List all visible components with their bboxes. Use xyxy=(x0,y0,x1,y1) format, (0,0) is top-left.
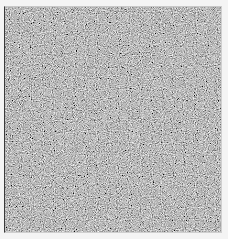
noise-image xyxy=(4,6,222,233)
noise-texture xyxy=(5,7,221,232)
